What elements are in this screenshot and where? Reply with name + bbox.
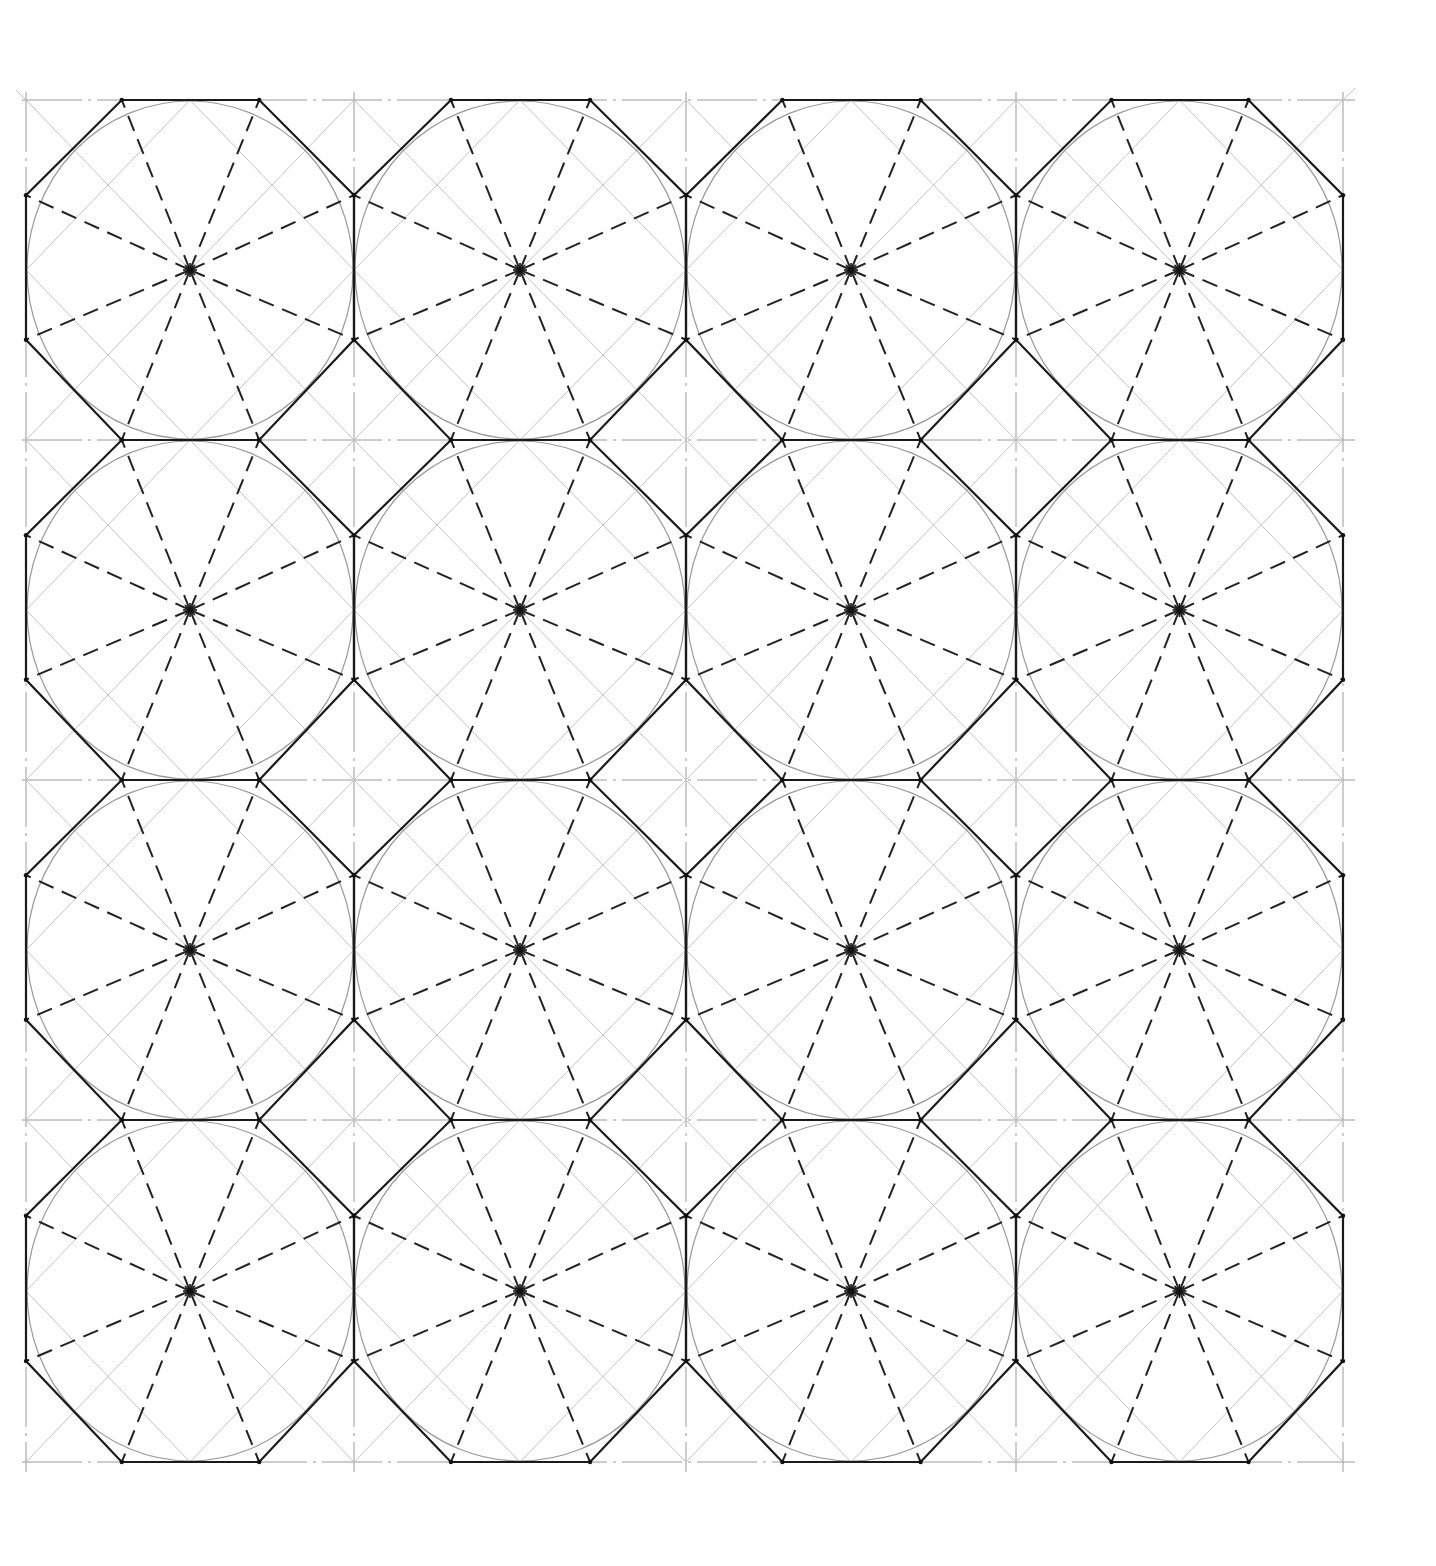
vertex-point [449,778,453,782]
vertex-point [24,1214,28,1218]
vertex-point [684,873,688,877]
vertex-point [352,1359,356,1363]
vertex-point [1341,193,1345,197]
vertex-point [684,338,688,342]
vertex-point [24,1359,28,1363]
radial-spoke [851,875,1016,950]
vertex-point [257,778,261,782]
vertex-point [780,1460,784,1464]
vertex-point [1246,98,1250,102]
vertex-point [780,98,784,102]
vertex-point [449,438,453,442]
vertex-point [780,1118,784,1122]
radial-spoke [190,780,259,950]
radial-spoke [190,1120,259,1291]
vertex-point [24,1018,28,1022]
vertex-point [1341,1214,1345,1218]
radial-spoke [1016,875,1180,950]
vertex-point [684,1018,688,1022]
vertex-point [1341,678,1345,682]
vertex-point [684,1214,688,1218]
vertex-point [120,1118,124,1122]
radial-spoke [851,195,1016,270]
vertex-point [588,438,592,442]
radial-spoke [520,195,686,270]
radial-spoke [1016,1216,1180,1291]
vertex-point [1246,438,1250,442]
radial-spoke [354,1216,520,1291]
radial-spoke [190,440,259,610]
radial-spoke [851,1216,1016,1291]
radial-spoke [354,535,520,610]
radial-spoke [354,875,520,950]
vertex-point [1109,1460,1113,1464]
vertex-point [1246,778,1250,782]
radial-spoke [190,195,354,270]
radial-spoke [1016,535,1180,610]
vertex-point [588,1118,592,1122]
radial-spoke [190,535,354,610]
radial-spoke [190,100,259,270]
radial-spoke [1180,875,1344,950]
vertex-point [1014,533,1018,537]
vertex-point [24,533,28,537]
radial-spoke [1180,535,1344,610]
radial-spoke [26,195,190,270]
radial-spoke [686,1216,851,1291]
radial-spoke [520,535,686,610]
vertex-point [257,1118,261,1122]
radial-spoke [1180,440,1249,610]
vertex-point [257,1460,261,1464]
vertex-point [1341,338,1345,342]
vertex-point [1014,678,1018,682]
radial-spoke [1180,1216,1344,1291]
vertex-point [257,438,261,442]
vertex-point [780,438,784,442]
vertex-point [684,193,688,197]
vertex-point [1014,1018,1018,1022]
radial-spoke [851,1120,921,1291]
radial-spoke [851,100,921,270]
vertex-point [449,1118,453,1122]
vertex-point [684,533,688,537]
vertex-point [352,193,356,197]
radial-spoke [851,535,1016,610]
vertex-point [120,778,124,782]
radial-spoke [26,535,190,610]
vertex-point [24,193,28,197]
vertex-point [1109,1118,1113,1122]
radial-spoke [26,875,190,950]
vertex-point [352,1214,356,1218]
vertex-point [24,678,28,682]
vertex-point [918,438,922,442]
vertex-point [684,1359,688,1363]
vertex-point [588,1460,592,1464]
vertex-point [918,1118,922,1122]
radial-spoke [520,1120,590,1291]
vertex-point [352,678,356,682]
vertex-point [120,98,124,102]
vertex-point [1341,1359,1345,1363]
radial-spoke [1180,1120,1249,1291]
radial-spoke [686,875,851,950]
vertex-point [120,438,124,442]
vertex-point [684,678,688,682]
tessellation-drawing [0,0,1436,1566]
vertex-point [1109,778,1113,782]
radial-spoke [520,1216,686,1291]
vertex-point [24,338,28,342]
vertex-point [1014,1359,1018,1363]
vertex-point [449,98,453,102]
vertex-point [1109,98,1113,102]
vertex-point [352,338,356,342]
vertex-point [918,778,922,782]
radial-spoke [26,1216,190,1291]
vertex-point [352,1018,356,1022]
radial-spoke [1016,195,1180,270]
vertex-point [1014,193,1018,197]
vertex-point [120,1460,124,1464]
vertex-point [1246,1460,1250,1464]
vertex-point [588,778,592,782]
vertex-point [1014,1214,1018,1218]
radial-spoke [1180,780,1249,950]
